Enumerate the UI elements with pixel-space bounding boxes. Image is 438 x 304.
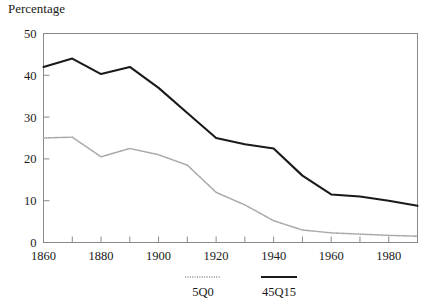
series-line-45q15 [44, 59, 418, 206]
chart-container: Percentage 01020304050 18601880190019201… [0, 0, 438, 304]
series-layer [44, 59, 418, 237]
y-tick-label: 10 [24, 194, 37, 208]
x-tick-label: 1880 [89, 249, 114, 263]
x-axis-tick-labels: 1860188019001920194019601980 [31, 249, 401, 263]
x-tick-label: 1940 [261, 249, 286, 263]
x-axis-ticks [44, 237, 418, 243]
y-tick-label: 50 [24, 27, 37, 41]
line-chart-plot: 01020304050 1860188019001920194019601980… [0, 0, 438, 304]
legend-label-5q0: 5Q0 [192, 285, 214, 299]
series-line-5q0 [44, 137, 418, 236]
legend-label-45q15: 45Q15 [262, 285, 296, 299]
plot-frame [44, 34, 418, 243]
chart-legend: 5Q045Q15 [185, 277, 297, 299]
y-axis-tick-labels: 01020304050 [24, 27, 37, 250]
y-tick-label: 20 [24, 152, 37, 166]
x-tick-label: 1860 [31, 249, 56, 263]
x-tick-label: 1900 [146, 249, 171, 263]
y-tick-label: 40 [24, 69, 37, 83]
y-tick-label: 30 [24, 111, 37, 125]
x-tick-label: 1980 [376, 249, 401, 263]
x-tick-label: 1960 [319, 249, 344, 263]
x-tick-label: 1920 [204, 249, 229, 263]
